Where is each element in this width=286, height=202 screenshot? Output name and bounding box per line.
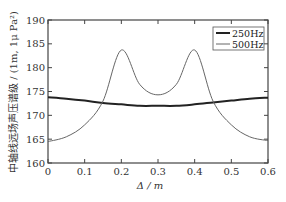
y-tick-label: 175: [26, 86, 45, 97]
x-tick-label: 0.5: [223, 166, 239, 177]
series-line-500hz: [48, 50, 268, 142]
y-tick-labels: 160165170175180185190: [26, 15, 45, 169]
x-tick-label: 0.2: [113, 166, 129, 177]
x-tick-label: 0.6: [260, 166, 276, 177]
legend: 250Hz 500Hz: [213, 27, 264, 50]
series-line-250hz: [48, 97, 268, 106]
legend-label-500hz: 500Hz: [232, 39, 263, 50]
y-axis-title: 中轴线远场声压谱级 / (1m, 1μ Pa²): [7, 11, 19, 173]
x-axis-title: Δ / m: [136, 180, 163, 191]
x-tick-label: 0.1: [77, 166, 93, 177]
series-lines: [48, 50, 268, 142]
line-chart: 160165170175180185190 00.10.20.30.40.50.…: [0, 0, 286, 202]
y-tick-label: 160: [26, 158, 45, 169]
y-tick-label: 185: [26, 38, 45, 49]
legend-label-250hz: 250Hz: [232, 28, 263, 39]
x-tick-label: 0.3: [150, 166, 166, 177]
y-tick-label: 180: [26, 62, 45, 73]
x-tick-labels: 00.10.20.30.40.50.6: [45, 166, 276, 177]
y-tick-label: 190: [26, 15, 45, 26]
y-tick-label: 170: [26, 110, 45, 121]
x-tick-label: 0.4: [187, 166, 203, 177]
y-tick-label: 165: [26, 134, 45, 145]
x-tick-label: 0: [45, 166, 51, 177]
